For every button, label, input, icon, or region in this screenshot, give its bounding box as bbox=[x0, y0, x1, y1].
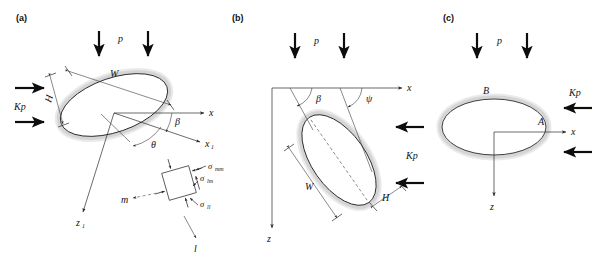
panel-c-axis-z-label: z bbox=[489, 201, 494, 212]
panel-b-height-label: H bbox=[381, 192, 390, 203]
panel-b-psi-label: ψ bbox=[366, 93, 373, 104]
panel-a-axis-z1-label: z bbox=[75, 217, 80, 228]
panel-b: (b) p x z β ψ bbox=[232, 13, 424, 244]
panel-a-sigma-ll-label: σ bbox=[200, 199, 205, 209]
panel-a-sigma-mm-label: σ bbox=[208, 161, 213, 171]
panel-a-axis-l-label: l bbox=[194, 243, 197, 254]
panel-b-psi-arc bbox=[348, 88, 362, 107]
panel-b-load-arrows bbox=[295, 33, 344, 58]
panel-a-axis-x1-sub: 1 bbox=[211, 144, 214, 150]
panel-c-load-label: p bbox=[496, 35, 502, 46]
panel-a-axis-l bbox=[184, 216, 196, 238]
panel-c-label: (c) bbox=[443, 13, 454, 23]
panel-c: (c) p x z A B Kp bbox=[442, 13, 592, 212]
panel-a-load-label: p bbox=[117, 33, 123, 44]
panel-a-stress-lm: σ lm bbox=[193, 173, 214, 186]
panel-a-sigma-mm-sub: mm bbox=[215, 166, 224, 172]
panel-c-point-b-label: B bbox=[483, 85, 489, 96]
panel-b-load-label: p bbox=[313, 35, 319, 46]
figure-svg: (a) p Kp W H bbox=[0, 0, 600, 263]
panel-a-axis-m bbox=[133, 192, 162, 198]
panel-a-beta-arc bbox=[166, 113, 172, 132]
panel-a-axis-z1-sub: 1 bbox=[82, 223, 85, 229]
panel-b-beta-arc bbox=[297, 88, 312, 106]
panel-a-sigma-lm-label: σ bbox=[200, 173, 205, 183]
panel-b-width-label: W bbox=[305, 181, 315, 192]
panel-a-theta-label: θ bbox=[151, 139, 156, 150]
panel-a-axis-x-label: x bbox=[208, 107, 214, 118]
panel-c-point-a-label: A bbox=[537, 116, 545, 127]
panel-a-stress-ll: σ ll bbox=[190, 198, 211, 210]
panel-a-label: (a) bbox=[16, 13, 27, 23]
panel-b-confining-label: Kp bbox=[405, 150, 418, 161]
panel-a-load-arrows bbox=[99, 31, 148, 56]
panel-c-confining-label: Kp bbox=[568, 87, 581, 98]
panel-b-axis-z-label: z bbox=[266, 233, 271, 244]
panel-a-sigma-lm-sub: lm bbox=[207, 178, 214, 184]
panel-a-beta-label: β bbox=[174, 116, 180, 127]
panel-b-beta-label: β bbox=[315, 93, 321, 104]
panel-b-label: (b) bbox=[232, 13, 244, 23]
panel-a-sigma-ll-sub: ll bbox=[207, 204, 211, 210]
panel-a-stress-mm: σ mm bbox=[196, 161, 224, 172]
panel-a-axis-x1-label: x bbox=[204, 138, 210, 149]
panel-b-borehole bbox=[287, 102, 391, 218]
panel-c-axis-x-label: x bbox=[570, 126, 576, 137]
panel-a-confining-label: Kp bbox=[13, 101, 26, 112]
figure-canvas: (a) p Kp W H bbox=[0, 0, 600, 263]
panel-a-height-label: H bbox=[42, 93, 55, 105]
panel-a: (a) p Kp W H bbox=[13, 13, 224, 254]
panel-c-load-arrows bbox=[477, 33, 527, 58]
panel-a-axis-m-label: m bbox=[121, 194, 128, 205]
panel-c-confining-arrows bbox=[564, 108, 592, 152]
panel-b-axis-x-label: x bbox=[406, 82, 412, 93]
